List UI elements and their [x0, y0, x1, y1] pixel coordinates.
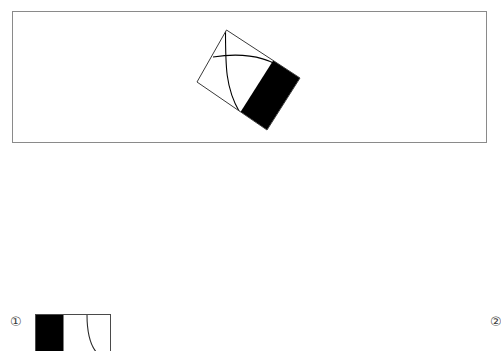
stimulus-frame: [12, 11, 487, 143]
option-1[interactable]: ①: [0, 155, 120, 245]
option-3[interactable]: ③: [0, 255, 120, 345]
option-4[interactable]: ④: [240, 255, 360, 345]
puzzle-page: ① ②: [0, 0, 501, 351]
option-2[interactable]: ②: [240, 155, 360, 245]
stimulus-svg: [193, 26, 313, 136]
stimulus-figure: [193, 26, 313, 136]
option-2-label: ②: [490, 315, 501, 328]
